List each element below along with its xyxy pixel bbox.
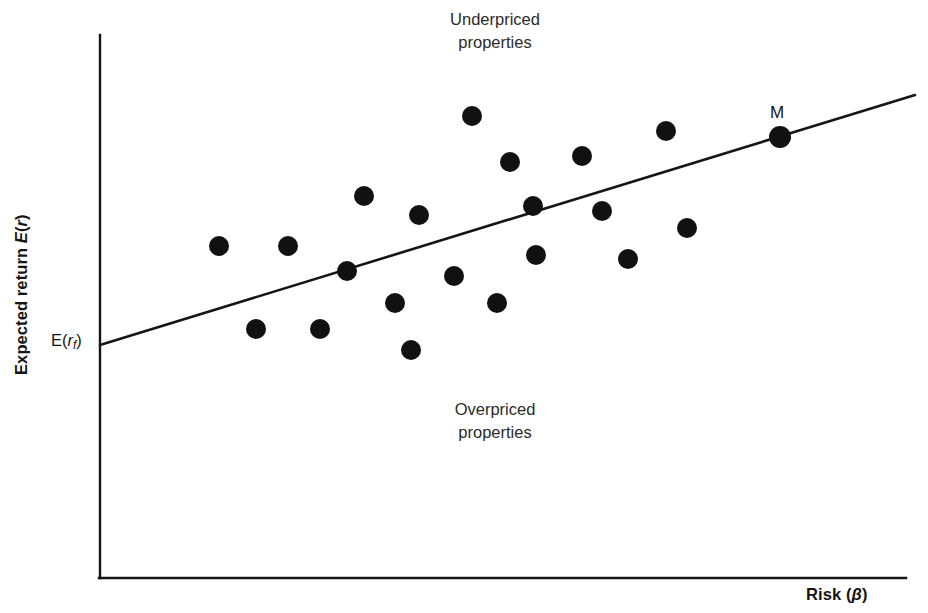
y-axis-label-text: Expected return E(r) xyxy=(12,214,30,375)
data-point xyxy=(310,319,330,339)
data-points-group xyxy=(209,106,791,360)
data-point xyxy=(618,249,638,269)
data-point xyxy=(500,152,520,172)
market-portfolio-label: M xyxy=(770,103,784,123)
risk-free-rate-label: E(rf) xyxy=(51,331,82,352)
data-point xyxy=(409,205,429,225)
scatter-plot-svg xyxy=(0,0,928,613)
x-axis-label: Risk (β) xyxy=(806,585,868,604)
market-portfolio-point xyxy=(769,126,791,148)
overpriced-line-2: properties xyxy=(458,423,531,441)
data-point xyxy=(246,319,266,339)
data-point xyxy=(444,266,464,286)
data-point xyxy=(354,186,374,206)
data-point xyxy=(523,196,543,216)
data-point xyxy=(677,218,697,238)
overpriced-line-1: Overpriced xyxy=(455,400,536,418)
overpriced-region-note: Overpriced properties xyxy=(380,398,610,445)
sml-line xyxy=(100,95,915,345)
security-market-line xyxy=(100,95,915,345)
data-point xyxy=(337,261,357,281)
underpriced-line-1: Underpriced xyxy=(450,10,540,28)
data-point xyxy=(526,245,546,265)
data-point xyxy=(278,236,298,256)
data-point xyxy=(401,340,421,360)
underpriced-line-2: properties xyxy=(458,33,531,51)
data-point xyxy=(592,201,612,221)
data-point xyxy=(209,236,229,256)
data-point xyxy=(385,293,405,313)
data-point xyxy=(656,121,676,141)
figure-canvas: Expected return E(r) Risk (β) Underprice… xyxy=(0,0,928,613)
y-axis-label: Expected return E(r) xyxy=(12,214,31,375)
data-point xyxy=(462,106,482,126)
market-portfolio-text: M xyxy=(770,103,784,122)
x-axis-label-text: Risk (β) xyxy=(806,585,868,603)
underpriced-region-note: Underpriced properties xyxy=(380,8,610,55)
data-point xyxy=(487,293,507,313)
risk-free-rate-text: E(rf) xyxy=(51,331,82,349)
data-point xyxy=(572,146,592,166)
